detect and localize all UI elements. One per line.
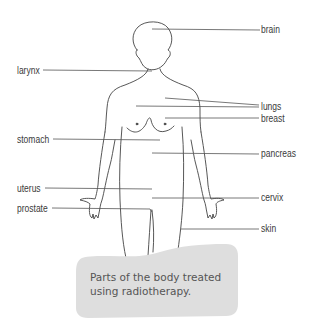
- leader-lungs-lower: [136, 106, 259, 107]
- leader-pancreas: [152, 153, 259, 154]
- leader-brain: [152, 29, 260, 30]
- label-prostate: prostate: [17, 204, 48, 214]
- caption-line-2: using radiotherapy.: [90, 284, 240, 298]
- label-pancreas: pancreas: [261, 149, 296, 159]
- label-breast: breast: [261, 114, 285, 124]
- leader-prostate: [52, 208, 152, 212]
- leader-lungs-upper: [165, 98, 259, 105]
- label-skin: skin: [261, 224, 276, 234]
- label-brain: brain: [261, 25, 280, 35]
- label-lungs: lungs: [261, 102, 281, 112]
- leader-larynx: [43, 70, 152, 71]
- leader-uterus: [45, 188, 152, 189]
- label-uterus: uterus: [17, 184, 41, 194]
- caption: Parts of the body treated using radiothe…: [90, 270, 240, 298]
- label-stomach: stomach: [17, 135, 49, 145]
- leader-stomach: [53, 139, 160, 140]
- label-larynx: larynx: [17, 66, 40, 76]
- leader-lines: [43, 29, 260, 229]
- label-cervix: cervix: [261, 193, 283, 203]
- caption-line-1: Parts of the body treated: [90, 270, 240, 284]
